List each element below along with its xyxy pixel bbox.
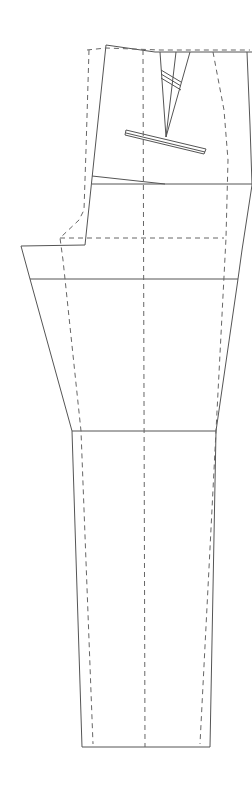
pattern-diagram: Trouser front pattern draft	[0, 0, 252, 792]
pattern-svg	[0, 0, 252, 792]
crease-line	[143, 50, 145, 747]
hip-curve	[92, 176, 165, 184]
front-dart	[160, 52, 190, 137]
